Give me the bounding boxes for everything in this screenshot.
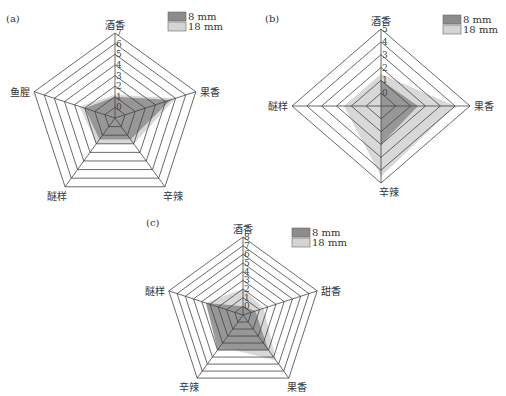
radar-chart-a: 01234567酒香果香辛辣醚样鱼腥(a)8 mm18 mm <box>6 11 223 202</box>
tick-label: 5 <box>244 258 250 268</box>
tick-label: 0 <box>382 88 388 98</box>
tick-label: 6 <box>244 249 250 259</box>
axis-label: 醚样 <box>47 190 67 202</box>
axis-label: 果香 <box>474 101 494 112</box>
axis-label: 酒香 <box>233 224 253 235</box>
axis-label: 辛辣 <box>379 186 399 198</box>
panel-label: (c) <box>146 217 160 228</box>
axis-label: 醚样 <box>268 100 288 112</box>
tick-label: 2 <box>244 284 250 294</box>
tick-label: 1 <box>244 293 250 303</box>
axis-label: 鱼腥 <box>10 86 30 98</box>
tick-label: 4 <box>382 37 388 47</box>
radar-figure: 01234567酒香果香辛辣醚样鱼腥(a)8 mm18 mm 012345酒香果… <box>0 0 506 396</box>
legend-label: 18 mm <box>188 21 223 32</box>
panel-label: (a) <box>6 13 20 24</box>
tick-label: 2 <box>382 63 388 73</box>
axis-label: 酒香 <box>105 20 125 31</box>
axis-label: 甜香 <box>321 285 341 297</box>
tick-label: 1 <box>116 92 122 102</box>
tick-label: 1 <box>382 75 388 85</box>
axis-label: 辛辣 <box>179 381 199 393</box>
radar-chart-c: 012345678酒香甜香果香辛辣醚样(c)8 mm18 mm <box>145 217 348 393</box>
tick-label: 3 <box>116 71 122 81</box>
axis-label: 辛辣 <box>163 190 183 202</box>
axis-label: 醚样 <box>145 285 165 297</box>
legend-label: 18 mm <box>312 237 347 248</box>
tick-label: 0 <box>244 301 250 311</box>
legend-swatch <box>168 12 186 21</box>
legend-swatch <box>292 238 310 247</box>
tick-label: 0 <box>116 102 122 112</box>
legend-swatch <box>292 228 310 237</box>
axis-label: 果香 <box>200 87 220 98</box>
tick-label: 2 <box>116 81 122 91</box>
legend-label: 18 mm <box>463 24 498 35</box>
tick-label: 5 <box>116 49 122 59</box>
axis-label: 果香 <box>287 382 307 393</box>
tick-label: 4 <box>116 60 122 70</box>
legend-swatch <box>443 15 461 24</box>
legend-swatch <box>443 25 461 34</box>
tick-label: 7 <box>244 241 250 251</box>
tick-label: 4 <box>244 267 250 277</box>
tick-label: 3 <box>244 275 250 285</box>
axis-label: 酒香 <box>371 16 391 27</box>
tick-label: 6 <box>116 39 122 49</box>
legend-swatch <box>168 22 186 31</box>
radar-chart-b: 012345酒香果香辛辣醚样(b)8 mm18 mm <box>265 13 498 198</box>
tick-label: 3 <box>382 50 388 60</box>
panel-label: (b) <box>265 13 279 24</box>
